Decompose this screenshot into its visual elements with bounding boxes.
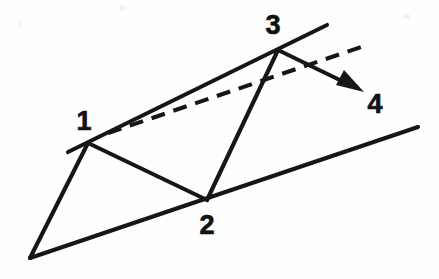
point1-to-point2-line: [88, 143, 207, 200]
vertex-label-1: 1: [76, 106, 91, 136]
vertex-label-3: 3: [265, 10, 280, 40]
arrow-head-icon: [336, 70, 364, 92]
line-diagram: 1 2 3 4: [0, 0, 439, 279]
upper-ray-line: [68, 25, 327, 152]
vertex-label-4: 4: [367, 89, 382, 119]
dashed-chord-line: [108, 47, 361, 133]
figure-canvas: 1 2 3 4: [0, 0, 439, 279]
vertex-label-2: 2: [199, 210, 214, 240]
